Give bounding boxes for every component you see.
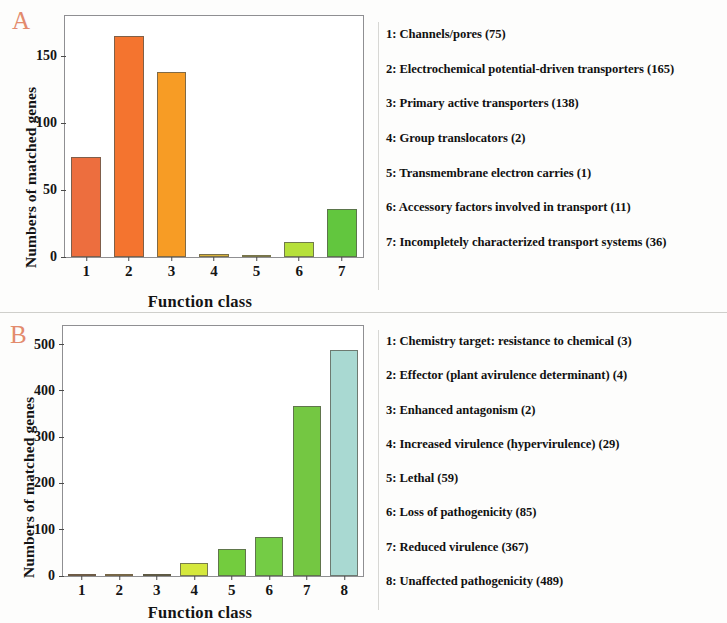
panel-b-x-axis-title: Function class xyxy=(40,603,360,623)
panel-a-x-tick: 2 xyxy=(125,257,133,279)
panel-b-y-tick-label: 200 xyxy=(34,476,59,490)
panel-a-y-tick-label: 50 xyxy=(43,183,61,197)
panel-b-plot-inner: 010020030040050012345678 xyxy=(63,326,363,576)
panel-a-y-tick-label: 150 xyxy=(36,49,61,63)
panel-a-x-tick-label: 3 xyxy=(168,264,176,279)
panel-b-x-tick: 2 xyxy=(116,576,124,598)
panel-b-x-tick-label: 2 xyxy=(116,583,124,598)
panel-b-x-tick: 6 xyxy=(266,576,274,598)
panel-b-legend-item: 2: Effector (plant avirulence determinan… xyxy=(386,368,722,382)
panel-b-x-tick-mark xyxy=(231,576,232,580)
panel-a-legend-item: 6: Accessory factors involved in transpo… xyxy=(386,200,722,214)
panel-a-bar xyxy=(284,242,314,257)
panel-a-x-tick: 7 xyxy=(338,257,346,279)
panel-b-legend-item: 3: Enhanced antagonism (2) xyxy=(386,403,722,417)
panel-a-legend-item: 5: Transmembrane electron carries (1) xyxy=(386,166,722,180)
panel-a-x-tick-mark xyxy=(128,257,129,261)
panel-a-x-tick-mark xyxy=(171,257,172,261)
panel-a-bar xyxy=(327,209,357,257)
panel-a-x-tick-mark xyxy=(299,257,300,261)
panel-b-y-tick-label: 100 xyxy=(34,522,59,536)
panel-a-bar xyxy=(114,36,144,257)
panel-a-plot-inner: 0501001501234567 xyxy=(65,16,363,257)
panel-b-y-tick-mark xyxy=(59,576,64,577)
panel-a-x-tick: 5 xyxy=(253,257,261,279)
panel-b-x-tick: 8 xyxy=(341,576,349,598)
panel-b-legend-item: 5: Lethal (59) xyxy=(386,471,722,485)
panel-a-letter: A xyxy=(12,8,30,33)
panel-b-x-tick-label: 4 xyxy=(191,583,199,598)
panel-b-x-tick-mark xyxy=(269,576,270,580)
panel-b-bar xyxy=(218,549,246,576)
panel-a-x-tick-mark xyxy=(256,257,257,261)
panel-b-x-tick-label: 6 xyxy=(266,583,274,598)
panel-b-y-tick-label: 400 xyxy=(34,383,59,397)
panel-a-bar xyxy=(157,72,187,257)
panel-a-x-tick-mark xyxy=(86,257,87,261)
panel-b-letter: B xyxy=(10,322,27,347)
panel-b-x-tick-label: 7 xyxy=(303,583,311,598)
panel-a-x-tick-label: 2 xyxy=(125,264,133,279)
panel-a-legend-item: 7: Incompletely characterized transport … xyxy=(386,235,722,249)
panel-b-x-tick-mark xyxy=(306,576,307,580)
panel-b-bar xyxy=(180,563,208,576)
panel-a-x-tick-label: 6 xyxy=(295,264,303,279)
panel-a-y-tick-label: 0 xyxy=(50,250,61,264)
panel-a-y-tick-label: 100 xyxy=(36,116,61,130)
panel-a-y-tick-mark xyxy=(61,257,66,258)
panel-b-x-tick-label: 5 xyxy=(228,583,236,598)
panel-a-x-tick: 4 xyxy=(210,257,218,279)
panel-b-y-tick-label: 300 xyxy=(34,430,59,444)
panel-b-x-tick-label: 3 xyxy=(153,583,161,598)
panel-b-x-tick: 3 xyxy=(153,576,161,598)
panel-a-legend-item: 4: Group translocators (2) xyxy=(386,131,722,145)
panel-b-x-tick-mark xyxy=(156,576,157,580)
panel-a-x-axis-title: Function class xyxy=(40,292,360,312)
panel-b-x-tick: 4 xyxy=(191,576,199,598)
panel-b-x-tick: 7 xyxy=(303,576,311,598)
panel-b-bar xyxy=(330,350,358,576)
panel-a-x-tick-mark xyxy=(214,257,215,261)
panel-a-legend: 1: Channels/pores (75)2: Electrochemical… xyxy=(386,27,722,270)
panel-b-y-tick-mark xyxy=(59,344,64,345)
panel-a-y-tick-mark xyxy=(61,56,66,57)
panel-a-y-tick-mark xyxy=(61,190,66,191)
panel-a-x-tick-label: 4 xyxy=(210,264,218,279)
panel-b-legend-item: 8: Unaffected pathogenicity (489) xyxy=(386,574,722,588)
panel-b-x-tick: 1 xyxy=(78,576,86,598)
panel-a-x-tick-label: 7 xyxy=(338,264,346,279)
panel-a-x-tick-label: 1 xyxy=(83,264,91,279)
panel-b-legend-item: 1: Chemistry target: resistance to chemi… xyxy=(386,334,722,348)
panel-b-plot-area: 010020030040050012345678 xyxy=(62,325,364,577)
panel-a-legend-item: 3: Primary active transporters (138) xyxy=(386,96,722,110)
panel-b-y-tick-mark xyxy=(59,529,64,530)
panel-a-x-tick-mark xyxy=(341,257,342,261)
panel-b-x-tick: 5 xyxy=(228,576,236,598)
panel-a-plot-area: 0501001501234567 xyxy=(64,15,364,258)
panel-a-legend-item: 1: Channels/pores (75) xyxy=(386,27,722,41)
panel-b-legend: 1: Chemistry target: resistance to chemi… xyxy=(386,334,722,608)
panel-b-x-tick-mark xyxy=(194,576,195,580)
panel-a-bar xyxy=(71,157,101,257)
panel-b-y-tick-mark xyxy=(59,390,64,391)
figure-root: A Numbers of matched genes Function clas… xyxy=(0,0,727,623)
panel-a-x-tick: 3 xyxy=(168,257,176,279)
panel-b-x-tick-label: 8 xyxy=(341,583,349,598)
panel-b-x-tick-mark xyxy=(344,576,345,580)
panel-b-legend-item: 6: Loss of pathogenicity (85) xyxy=(386,505,722,519)
panel-b-bar xyxy=(255,537,283,576)
panel-b-y-tick-mark xyxy=(59,437,64,438)
panel-a-legend-item: 2: Electrochemical potential-driven tran… xyxy=(386,62,722,76)
panel-a-x-tick: 1 xyxy=(83,257,91,279)
panel-b-legend-item: 4: Increased virulence (hypervirulence) … xyxy=(386,437,722,451)
panel-b-y-tick-label: 0 xyxy=(48,569,59,583)
panel-b-x-tick-mark xyxy=(81,576,82,580)
panel-a: A Numbers of matched genes Function clas… xyxy=(0,0,727,316)
panel-b-x-tick-mark xyxy=(119,576,120,580)
panel-a-y-tick-mark xyxy=(61,123,66,124)
panel-b-y-tick-label: 500 xyxy=(34,337,59,351)
panel-b-x-tick-label: 1 xyxy=(78,583,86,598)
panel-b-y-tick-mark xyxy=(59,483,64,484)
panel-a-x-tick: 6 xyxy=(295,257,303,279)
panel-b-legend-item: 7: Reduced virulence (367) xyxy=(386,540,722,554)
